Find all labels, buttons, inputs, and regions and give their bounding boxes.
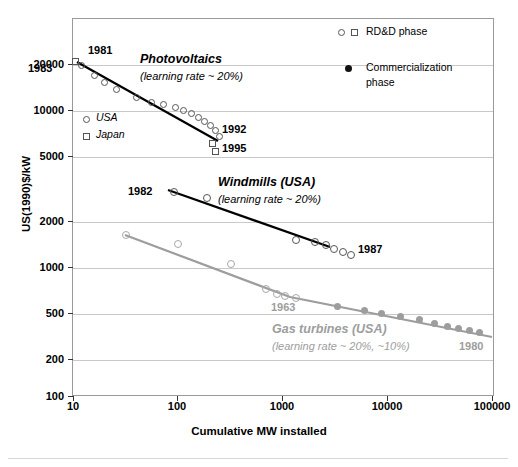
data-point [209,140,216,147]
annotation-pv-1981: 1981 [88,44,112,56]
legend-marker-japan [83,133,90,140]
xtick-label-10000: 10000 [372,400,403,412]
ytick-mark-1000 [68,267,73,268]
xtick-label-100: 100 [168,400,186,412]
data-point [281,292,289,300]
data-point [91,72,98,79]
data-point [444,323,451,330]
ytick-mark-5000 [68,156,73,157]
annotation-pv-1983: 1983 [28,62,52,74]
y-axis-title: US(1990)$/kW [20,124,32,264]
annotation-gas-title: Gas turbines (USA) [272,322,387,336]
ytick-mark-500 [68,313,73,314]
gridline-200 [73,360,493,361]
data-point [416,316,423,323]
xtick-label-10: 10 [67,400,79,412]
gridline-2000 [73,222,493,223]
annotation-pv-title: Photovoltaics [140,52,222,66]
xtick-label-100000: 100000 [474,400,511,412]
legend-marker-rdd-square [351,29,358,36]
legend-marker-commercialization [345,65,352,72]
data-point [122,231,130,239]
annotation-pv-rate: (learning rate ~ 20%) [140,70,243,82]
data-point [361,307,368,314]
data-point [133,94,140,101]
legend-marker-rdd-circle [338,29,345,36]
data-point [339,248,347,256]
data-point [334,303,341,310]
data-point [273,290,281,298]
data-point [455,325,462,332]
data-point [78,62,85,69]
ytick-mark-2000 [68,221,73,222]
legend-label-commercialization-line2: phase [366,76,395,88]
gridline-5000 [73,157,493,158]
data-point [101,79,108,86]
legend-label-usa: USA [96,111,118,123]
annotation-wind-1987: 1987 [358,243,382,255]
data-point [466,327,473,334]
data-point [347,251,355,259]
legend-label-commercialization-line1: Commercialization [366,61,452,73]
annotation-gas-rate: (learning rate ~ 20%, ~10%) [272,340,410,352]
data-point [172,104,179,111]
data-point [113,86,120,93]
data-point [476,329,483,336]
data-point [203,194,211,202]
data-point [212,148,219,155]
gridline-1000 [73,268,493,269]
data-point [378,310,385,317]
xtick-label-1000: 1000 [270,400,294,412]
data-point [397,313,404,320]
annotation-wind-1982: 1982 [128,185,152,197]
data-point [227,260,235,268]
data-point [160,101,167,108]
legend-marker-usa [83,116,90,123]
data-point [262,285,270,293]
data-point [180,107,187,114]
annotation-gas-1963: 1963 [271,301,295,313]
data-point [174,240,182,248]
data-point [292,236,300,244]
legend-label-japan: Japan [96,128,125,140]
footer-divider [8,458,508,459]
annotation-gas-1980: 1980 [459,340,483,352]
gridline-10000 [73,111,493,112]
ytick-label-500: 500 [16,307,64,319]
ytick-label-200: 200 [16,353,64,365]
annotation-pv-1995: 1995 [222,142,246,154]
data-point [322,241,330,249]
legend-label-rdd: RD&D phase [366,25,427,37]
data-point [148,99,155,106]
ytick-mark-200 [68,359,73,360]
ytick-label-10000: 10000 [16,104,64,116]
data-point [311,238,319,246]
gridline-500 [73,314,493,315]
data-point [431,320,438,327]
ytick-mark-10000 [68,110,73,111]
annotation-wind-rate: (learning rate ~ 20%) [218,193,321,205]
annotation-pv-1992: 1992 [222,123,246,135]
data-point [188,110,195,117]
x-axis-title: Cumulative MW installed [0,425,518,437]
ytick-label-100: 100 [16,390,64,402]
data-point [330,245,338,253]
data-point [170,188,178,196]
chart-container: 20000 10000 5000 2000 1000 500 200 100 1… [0,0,518,467]
annotation-wind-title: Windmills (USA) [218,175,315,189]
